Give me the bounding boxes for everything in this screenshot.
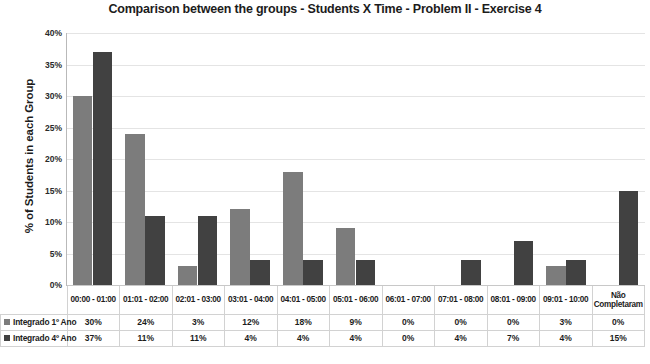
table-value-cell: 4% bbox=[540, 331, 593, 347]
table-value-cell: 4% bbox=[225, 331, 278, 347]
bar-group bbox=[592, 33, 645, 285]
bar bbox=[514, 241, 534, 285]
table-value-cell: 0% bbox=[435, 315, 488, 331]
bar bbox=[336, 228, 356, 285]
table-corner-cell bbox=[1, 286, 68, 315]
bar bbox=[303, 260, 323, 285]
table-value-cell: 12% bbox=[225, 315, 278, 331]
bar bbox=[546, 266, 566, 285]
y-tick-label-30pct: 30% bbox=[22, 91, 62, 101]
legend-item[interactable]: Integrado 4º Ano bbox=[1, 331, 68, 347]
table-body: Integrado 1º Ano30%24%3%12%18%9%0%0%0%3%… bbox=[1, 315, 645, 347]
table-category-header: 08:01 - 09:00 bbox=[487, 286, 540, 315]
plot-area bbox=[66, 33, 645, 285]
bar bbox=[125, 134, 145, 285]
y-tick-label-5pct: 5% bbox=[22, 249, 62, 259]
y-axis-line bbox=[66, 33, 67, 286]
legend-label: Integrado 1º Ano bbox=[13, 317, 76, 327]
y-tick-label-20pct: 20% bbox=[22, 154, 62, 164]
bar bbox=[356, 260, 376, 285]
table-value-cell: 11% bbox=[120, 331, 173, 347]
table-value-cell: 4% bbox=[277, 331, 330, 347]
y-tick-label-10pct: 10% bbox=[22, 217, 62, 227]
table-category-header: 07:01 - 08:00 bbox=[435, 286, 488, 315]
table-category-header: 04:01 - 05:00 bbox=[277, 286, 330, 315]
table-value-cell: 3% bbox=[172, 315, 225, 331]
table-value-cell: 11% bbox=[172, 331, 225, 347]
table-value-cell: 7% bbox=[487, 331, 540, 347]
table-category-header: 01:01 - 02:00 bbox=[120, 286, 173, 315]
bar-group bbox=[277, 33, 330, 285]
bar bbox=[178, 266, 198, 285]
bar-group bbox=[434, 33, 487, 285]
bar-group bbox=[540, 33, 593, 285]
table-category-header: 02:01 - 03:00 bbox=[172, 286, 225, 315]
y-tick-label-35pct: 35% bbox=[22, 60, 62, 70]
bar-group bbox=[329, 33, 382, 285]
legend-swatch-icon bbox=[4, 319, 10, 325]
table-value-cell: 0% bbox=[592, 315, 645, 331]
table-row: Integrado 4º Ano37%11%11%4%4%4%0%4%7%4%1… bbox=[1, 331, 645, 347]
table-category-header: 06:01 - 07:00 bbox=[382, 286, 435, 315]
bar bbox=[619, 191, 639, 286]
table-category-header: Não Completaram bbox=[592, 286, 645, 315]
table-row: Integrado 1º Ano30%24%3%12%18%9%0%0%0%3%… bbox=[1, 315, 645, 331]
bar-group bbox=[66, 33, 119, 285]
table-value-cell: 0% bbox=[382, 331, 435, 347]
legend-item[interactable]: Integrado 1º Ano bbox=[1, 315, 68, 331]
table-header-row: 00:00 - 01:0001:01 - 02:0002:01 - 03:000… bbox=[1, 286, 645, 315]
legend-label: Integrado 4º Ano bbox=[13, 333, 76, 343]
y-tick-label-40pct: 40% bbox=[22, 28, 62, 38]
bar bbox=[145, 216, 165, 285]
table-value-cell: 3% bbox=[540, 315, 593, 331]
legend-swatch-icon bbox=[4, 335, 10, 341]
bars-layer bbox=[66, 33, 645, 285]
bar bbox=[250, 260, 270, 285]
bar-group bbox=[119, 33, 172, 285]
table-category-header: 03:01 - 04:00 bbox=[225, 286, 278, 315]
y-tick-label-15pct: 15% bbox=[22, 186, 62, 196]
bar bbox=[566, 260, 586, 285]
bar bbox=[283, 172, 303, 285]
bar-group bbox=[487, 33, 540, 285]
table-value-cell: 18% bbox=[277, 315, 330, 331]
table-value-cell: 0% bbox=[382, 315, 435, 331]
bar-group bbox=[382, 33, 435, 285]
table-value-cell: 4% bbox=[330, 331, 383, 347]
bar bbox=[461, 260, 481, 285]
table-value-cell: 24% bbox=[120, 315, 173, 331]
bar bbox=[230, 209, 250, 285]
bar bbox=[198, 216, 218, 285]
bar bbox=[73, 96, 93, 285]
table-value-cell: 9% bbox=[330, 315, 383, 331]
table-value-cell: 15% bbox=[592, 331, 645, 347]
data-table: 00:00 - 01:0001:01 - 02:0002:01 - 03:000… bbox=[0, 286, 645, 347]
table-category-header: 00:00 - 01:00 bbox=[67, 286, 120, 315]
bar-group bbox=[224, 33, 277, 285]
y-tick-label-25pct: 25% bbox=[22, 123, 62, 133]
table-category-header: 09:01 - 10:00 bbox=[540, 286, 593, 315]
bar-group bbox=[171, 33, 224, 285]
table-category-header: 05:01 - 06:00 bbox=[330, 286, 383, 315]
bar bbox=[93, 52, 113, 285]
table-value-cell: 4% bbox=[435, 331, 488, 347]
table-value-cell: 0% bbox=[487, 315, 540, 331]
